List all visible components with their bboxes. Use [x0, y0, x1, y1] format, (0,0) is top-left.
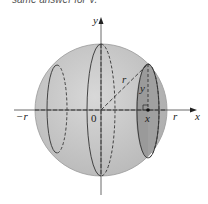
x-axis-label: x — [194, 110, 200, 122]
slice-height-label: y — [139, 82, 145, 94]
origin-label: 0 — [91, 112, 97, 124]
y-axis-label: y — [92, 14, 98, 26]
neg-r-label: −r — [16, 110, 28, 122]
pos-r-label: r — [173, 110, 178, 122]
slice-x-label: x — [144, 112, 150, 124]
radius-label: r — [122, 73, 127, 85]
y-axis-arrow-icon — [99, 17, 104, 24]
sphere-diagram: y x 0 −r r r y x — [0, 0, 208, 204]
